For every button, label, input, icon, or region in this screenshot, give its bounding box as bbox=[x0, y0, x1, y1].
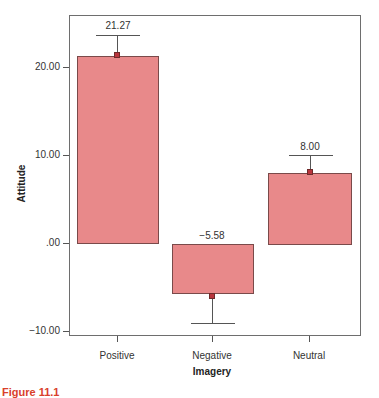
mean-marker-neutral bbox=[307, 169, 313, 175]
y-axis-title: Attitude bbox=[16, 159, 27, 209]
x-label-negative: Negative bbox=[172, 350, 252, 361]
value-label-neutral: 8.00 bbox=[280, 141, 340, 152]
y-tick-label-0: .00 bbox=[10, 237, 60, 248]
mean-marker-negative bbox=[209, 293, 215, 299]
y-tick-20 bbox=[63, 67, 69, 68]
x-tick-positive bbox=[117, 336, 118, 342]
mean-marker-positive bbox=[114, 52, 120, 58]
y-tick-label-20: 20.00 bbox=[10, 61, 60, 72]
figure-caption: Figure 11.1 bbox=[2, 386, 59, 398]
value-label-positive: 21.27 bbox=[88, 20, 148, 31]
bar-positive bbox=[77, 56, 159, 244]
error-bar-neutral-cap bbox=[289, 155, 333, 156]
y-tick-10 bbox=[63, 155, 69, 156]
x-tick-neutral bbox=[309, 336, 310, 342]
y-tick-neg10 bbox=[63, 331, 69, 332]
x-axis-title: Imagery bbox=[182, 366, 242, 377]
error-bar-positive-cap bbox=[96, 35, 140, 36]
y-tick-label-neg10: −10.00 bbox=[10, 325, 60, 336]
value-label-negative: −5.58 bbox=[182, 230, 242, 241]
y-tick-0 bbox=[63, 243, 69, 244]
bar-neutral bbox=[268, 173, 352, 245]
x-tick-negative bbox=[212, 336, 213, 342]
error-bar-negative-cap bbox=[191, 323, 235, 324]
x-label-positive: Positive bbox=[77, 350, 157, 361]
x-label-neutral: Neutral bbox=[269, 350, 349, 361]
bar-negative bbox=[172, 244, 254, 294]
